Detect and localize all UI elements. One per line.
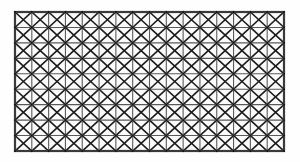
- joint-node: [216, 57, 218, 59]
- joint-node: [233, 88, 235, 90]
- joint-node: [199, 119, 201, 121]
- joint-node: [149, 150, 151, 152]
- joint-node: [81, 135, 83, 137]
- joint-node: [65, 135, 67, 137]
- joint-node: [149, 88, 151, 90]
- joint-node: [98, 27, 100, 29]
- joint-node: [149, 135, 151, 137]
- joint-node: [14, 27, 16, 29]
- joint-node: [132, 11, 134, 13]
- joint-node: [233, 42, 235, 44]
- joint-node: [31, 88, 33, 90]
- joint-node: [132, 135, 134, 137]
- joint-node: [48, 135, 50, 137]
- joint-node: [249, 104, 251, 106]
- joint-node: [31, 73, 33, 75]
- joint-node: [233, 104, 235, 106]
- joint-node: [149, 104, 151, 106]
- joint-node: [65, 27, 67, 29]
- joint-node: [81, 27, 83, 29]
- joint-node: [283, 57, 285, 59]
- joint-node: [115, 57, 117, 59]
- joint-node: [283, 88, 285, 90]
- joint-node: [283, 73, 285, 75]
- joint-node: [115, 135, 117, 137]
- joint-node: [115, 42, 117, 44]
- joint-node: [216, 150, 218, 152]
- joint-node: [81, 104, 83, 106]
- joint-node: [249, 73, 251, 75]
- joint-node: [31, 150, 33, 152]
- joint-node: [115, 150, 117, 152]
- joint-node: [233, 57, 235, 59]
- joint-node: [132, 104, 134, 106]
- joint-node: [283, 11, 285, 13]
- joint-node: [165, 27, 167, 29]
- joint-node: [165, 42, 167, 44]
- joint-node: [14, 150, 16, 152]
- joint-node: [182, 11, 184, 13]
- joint-node: [65, 57, 67, 59]
- joint-node: [48, 88, 50, 90]
- joint-node: [182, 57, 184, 59]
- joint-node: [216, 73, 218, 75]
- joint-node: [98, 119, 100, 121]
- joint-node: [249, 88, 251, 90]
- joint-node: [165, 57, 167, 59]
- joint-node: [98, 57, 100, 59]
- joint-node: [216, 42, 218, 44]
- joint-node: [283, 42, 285, 44]
- joint-node: [249, 57, 251, 59]
- joint-node: [233, 73, 235, 75]
- joint-node: [266, 42, 268, 44]
- joint-node: [233, 150, 235, 152]
- joint-node: [182, 88, 184, 90]
- joint-node: [266, 135, 268, 137]
- joint-node: [199, 11, 201, 13]
- joint-node: [266, 104, 268, 106]
- joint-node: [165, 88, 167, 90]
- joint-node: [149, 11, 151, 13]
- joint-node: [14, 73, 16, 75]
- joint-node: [31, 27, 33, 29]
- joint-node: [283, 135, 285, 137]
- joint-node: [98, 88, 100, 90]
- joint-node: [199, 73, 201, 75]
- joint-node: [165, 104, 167, 106]
- joint-node: [115, 88, 117, 90]
- joint-node: [115, 11, 117, 13]
- joint-node: [165, 119, 167, 121]
- joint-node: [249, 11, 251, 13]
- joint-node: [115, 27, 117, 29]
- joint-node: [266, 88, 268, 90]
- joint-node: [81, 11, 83, 13]
- joint-node: [31, 11, 33, 13]
- joint-node: [48, 119, 50, 121]
- joint-node: [216, 11, 218, 13]
- joint-node: [149, 73, 151, 75]
- lattice-figure: Rectangular lattice grid with X cross-br…: [0, 0, 300, 162]
- joint-node: [132, 27, 134, 29]
- joint-node: [216, 88, 218, 90]
- joint-node: [283, 119, 285, 121]
- joint-node: [98, 11, 100, 13]
- joint-node: [233, 135, 235, 137]
- joint-node: [216, 27, 218, 29]
- joint-node: [149, 42, 151, 44]
- joint-node: [132, 150, 134, 152]
- joint-node: [182, 119, 184, 121]
- joint-node: [132, 88, 134, 90]
- joint-node: [65, 88, 67, 90]
- joint-node: [115, 73, 117, 75]
- joint-node: [182, 135, 184, 137]
- joint-node: [48, 57, 50, 59]
- joint-node: [182, 73, 184, 75]
- joint-node: [81, 42, 83, 44]
- joint-node: [132, 119, 134, 121]
- joint-node: [14, 11, 16, 13]
- joint-node: [48, 73, 50, 75]
- joint-node: [31, 119, 33, 121]
- joint-node: [266, 27, 268, 29]
- joint-node: [165, 11, 167, 13]
- joint-node: [199, 104, 201, 106]
